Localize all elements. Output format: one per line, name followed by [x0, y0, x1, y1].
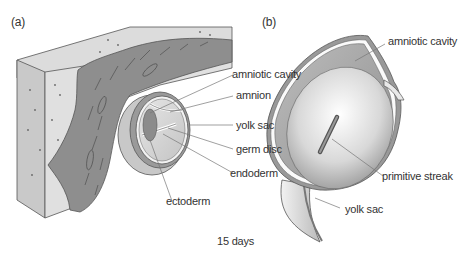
label-a-amniotic-cavity: amniotic cavity: [232, 68, 301, 80]
panel-b-embryo: [267, 35, 410, 242]
label-a-yolk-sac: yolk sac: [236, 119, 274, 131]
label-b-amniotic-cavity: amniotic cavity: [388, 35, 457, 47]
figure-caption: 15 days: [217, 235, 254, 247]
panel-a-embryo: [118, 92, 190, 175]
label-a-ectoderm: ectoderm: [166, 195, 210, 207]
label-b-yolk-sac: yolk sac: [345, 203, 383, 215]
panel-a-tag: (a): [11, 15, 25, 29]
panel-b-tag: (b): [262, 15, 276, 29]
label-a-amnion: amnion: [236, 89, 271, 101]
label-a-endoderm: endoderm: [230, 167, 278, 179]
label-a-germ-disc: germ disc: [236, 143, 282, 155]
label-b-primitive-streak: primitive streak: [382, 170, 453, 182]
